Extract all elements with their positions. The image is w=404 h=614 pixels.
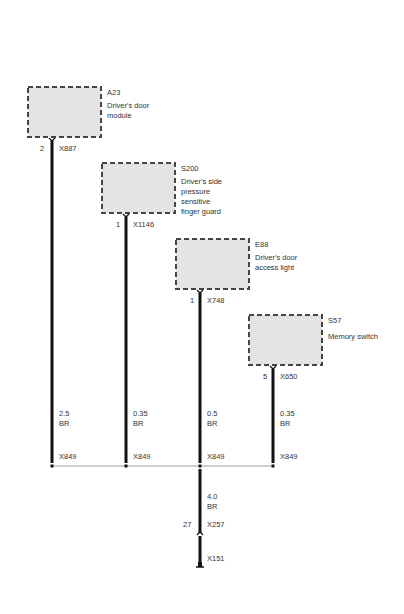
trunk-connector: X257: [207, 520, 225, 530]
component-id-e88: E88: [255, 240, 268, 250]
connector-fork-icon: [270, 366, 276, 369]
component-id-a23: A23: [107, 88, 120, 98]
connector-fork-icon: [123, 214, 129, 217]
connector-fork-icon: [197, 290, 203, 293]
wire-color-s200: BR: [133, 419, 143, 429]
component-desc-s200-line2: pressure: [181, 187, 210, 197]
connector-s200: X1146: [133, 220, 154, 230]
trunk-wire-size: 4.0: [207, 492, 217, 502]
bus-connector-s200: X849: [133, 452, 151, 462]
component-box-s200: [102, 163, 175, 213]
splice-dot: [199, 465, 202, 468]
connector-fork-icon: [49, 138, 55, 141]
wire-color-a23: BR: [59, 419, 69, 429]
component-desc-s200-line3: sensitive: [181, 197, 210, 207]
component-desc-e88-line2: access light: [255, 263, 294, 273]
wire-size-s200: 0.35: [133, 409, 148, 419]
wire-size-a23: 2.5: [59, 409, 69, 419]
connector-e88: X748: [207, 296, 225, 306]
component-id-s57: S57: [328, 316, 341, 326]
component-box-a23: [28, 87, 101, 137]
ground-terminal-icon: [196, 562, 204, 567]
component-box-e88: [176, 239, 249, 289]
component-desc-a23-line2: module: [107, 111, 132, 121]
bus-connector-e88: X849: [207, 452, 225, 462]
pin-e88: 1: [190, 296, 194, 306]
component-box-s57: [249, 315, 322, 365]
component-desc-s200-line1: Driver's side: [181, 177, 222, 187]
component-id-s200: S200: [181, 164, 199, 174]
wiring-diagram: [0, 0, 404, 614]
component-desc-s57-line1: Memory switch: [328, 332, 378, 342]
pin-s200: 1: [116, 220, 120, 230]
wire-size-e88: 0.5: [207, 409, 217, 419]
wire-color-s57: BR: [280, 419, 290, 429]
trunk-wire-color: BR: [207, 502, 217, 512]
component-desc-a23-line1: Driver's door: [107, 101, 149, 111]
component-desc-e88-line1: Driver's door: [255, 253, 297, 263]
connector-fork-up-icon: [197, 532, 203, 535]
splice-dot: [125, 465, 128, 468]
splice-dot: [51, 465, 54, 468]
bus-connector-a23: X849: [59, 452, 77, 462]
wire-size-s57: 0.35: [280, 409, 295, 419]
trunk-pin: 27: [183, 520, 191, 530]
bus-connector-s57: X849: [280, 452, 298, 462]
connector-a23: X887: [59, 144, 77, 154]
component-desc-s200-line4: finger guard: [181, 207, 221, 217]
splice-dot: [272, 465, 275, 468]
wire-color-e88: BR: [207, 419, 217, 429]
pin-a23: 2: [40, 144, 44, 154]
ground-connector: X151: [207, 554, 225, 564]
connector-s57: X650: [280, 372, 298, 382]
pin-s57: 5: [263, 372, 267, 382]
